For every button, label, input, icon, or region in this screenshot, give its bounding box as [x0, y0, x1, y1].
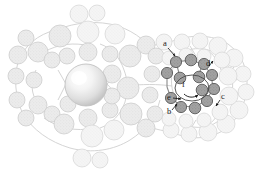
atom-sphere	[181, 126, 197, 142]
atom-sphere	[102, 102, 118, 118]
atom-sphere	[179, 114, 193, 128]
atom-sphere-dark	[189, 102, 201, 114]
atom-sphere	[54, 114, 74, 134]
atom-sphere-dark	[193, 71, 205, 83]
atom-sphere	[148, 48, 164, 64]
atom-sphere	[214, 52, 230, 68]
atom-sphere	[44, 52, 60, 68]
atom-sphere	[9, 46, 27, 64]
atom-sphere	[142, 87, 158, 103]
molecular-figure: a b c d e f	[0, 0, 258, 177]
atom-sphere-dark	[206, 69, 217, 80]
atom-sphere	[70, 5, 88, 23]
atom-sphere	[174, 34, 190, 50]
atom-sphere	[192, 33, 208, 49]
atom-sphere	[73, 149, 91, 167]
atom-sphere	[77, 21, 99, 43]
atom-sphere	[9, 92, 25, 108]
molecular-structure-svg: a b c d e f	[0, 0, 258, 177]
atom-sphere-dark	[208, 83, 219, 94]
atom-sphere	[238, 84, 254, 100]
atom-sphere	[219, 67, 237, 85]
atom-sphere	[147, 106, 163, 122]
atom-sphere	[18, 110, 34, 126]
label-b: b	[167, 106, 171, 116]
atom-sphere	[105, 24, 125, 44]
atom-sphere	[81, 125, 103, 147]
atom-sphere	[102, 46, 118, 62]
atom-sphere	[18, 30, 34, 46]
atom-sphere	[26, 72, 42, 88]
atom-sphere	[89, 5, 105, 21]
atom-sphere-dark	[161, 67, 172, 78]
atom-sphere-dark	[196, 84, 208, 96]
label-e: e	[167, 92, 171, 102]
atom-sphere	[197, 113, 211, 127]
atom-sphere-dark	[170, 56, 181, 67]
atom-sphere	[8, 68, 24, 84]
atom-sphere	[212, 104, 228, 120]
atom-sphere	[235, 66, 251, 82]
atom-sphere	[79, 43, 97, 61]
label-f: f	[182, 79, 185, 89]
label-a: a	[163, 38, 167, 48]
label-c: c	[221, 91, 225, 101]
atom-sphere	[92, 152, 108, 168]
atom-sphere	[59, 48, 75, 64]
atom-sphere	[79, 109, 97, 127]
atom-sphere	[144, 66, 160, 82]
atom-sphere-dark	[201, 95, 212, 106]
atom-sphere	[104, 120, 124, 140]
atom-sphere	[49, 25, 71, 47]
central-guest-ion	[65, 64, 107, 106]
atom-sphere	[120, 103, 142, 125]
atom-sphere-dark	[185, 54, 197, 66]
atom-sphere-dark	[175, 101, 186, 112]
